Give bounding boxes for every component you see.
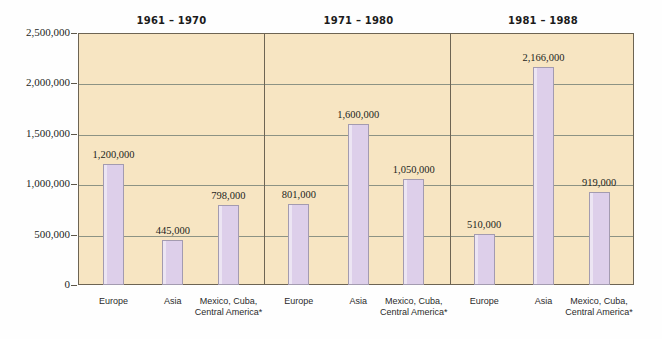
bar-value-label: 1,200,000	[69, 149, 159, 160]
bar	[589, 192, 610, 285]
bar-highlight	[475, 235, 478, 284]
group-divider	[450, 34, 451, 284]
y-tick-label: 500,000	[0, 228, 70, 240]
bar-highlight	[534, 68, 537, 284]
category-label-line: Central America*	[544, 307, 654, 318]
y-tick-label: 1,500,000	[0, 127, 70, 139]
y-tick-mark	[71, 235, 77, 236]
y-tick-mark	[71, 285, 77, 286]
bar	[474, 234, 495, 285]
y-tick-mark	[71, 33, 77, 34]
bar	[403, 179, 424, 285]
category-label-line: Central America*	[359, 307, 469, 318]
y-tick-label: 2,500,000	[0, 26, 70, 38]
category-label: Mexico, Cuba,Central America*	[544, 296, 654, 318]
bar	[533, 67, 554, 285]
y-tick-label: 1,000,000	[0, 177, 70, 189]
bar-highlight	[590, 193, 593, 284]
y-tick-mark	[71, 184, 77, 185]
bar	[103, 164, 124, 285]
y-tick-mark	[71, 134, 77, 135]
bar-highlight	[349, 125, 352, 284]
period-header-2: 1971 – 1980	[265, 15, 452, 26]
bar-highlight	[219, 206, 222, 284]
bar	[348, 124, 369, 285]
bar-value-label: 801,000	[254, 189, 344, 200]
bar	[218, 205, 239, 285]
y-tick-label: 2,000,000	[0, 76, 70, 88]
bar-value-label: 2,166,000	[498, 52, 588, 63]
bar-value-label: 510,000	[439, 219, 529, 230]
bar-highlight	[289, 205, 292, 284]
bar-value-label: 1,600,000	[313, 109, 403, 120]
bar-value-label: 919,000	[554, 177, 644, 188]
bar	[162, 240, 183, 285]
bar-highlight	[163, 241, 166, 284]
bar-highlight	[104, 165, 107, 284]
y-tick-label: 0	[0, 278, 70, 290]
bar-highlight	[404, 180, 407, 284]
group-divider	[264, 34, 265, 284]
bar	[288, 204, 309, 285]
bar-value-label: 1,050,000	[369, 164, 459, 175]
category-label-line: Mexico, Cuba,	[544, 296, 654, 307]
period-header-3: 1981 – 1988	[452, 15, 634, 26]
period-header-1: 1961 – 1970	[78, 15, 265, 26]
y-tick-mark	[71, 83, 77, 84]
immigration-bar-chart: 1961 – 1970 1971 – 1980 1981 – 1988 0500…	[0, 0, 662, 339]
bar-value-label: 445,000	[128, 225, 218, 236]
category-label-line: Central America*	[173, 307, 283, 318]
